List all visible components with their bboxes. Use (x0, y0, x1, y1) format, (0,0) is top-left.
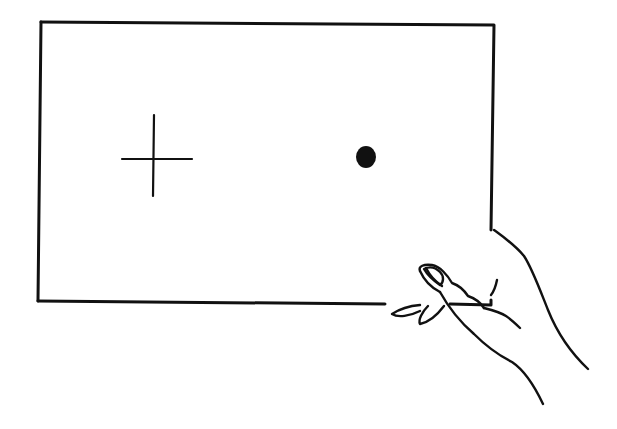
illustration (0, 0, 617, 429)
fixation-cross-icon (122, 115, 192, 196)
test-card (38, 22, 494, 305)
target-dot-icon (356, 146, 376, 168)
hand-icon (392, 230, 588, 404)
